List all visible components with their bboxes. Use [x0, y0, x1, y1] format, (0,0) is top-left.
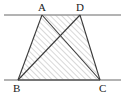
vertex-label-C: C — [99, 83, 106, 94]
vertex-label-B: B — [13, 83, 20, 94]
vertex-label-A: A — [38, 2, 46, 13]
geometry-figure: A D B C — [0, 0, 125, 97]
vertex-label-D: D — [76, 2, 84, 13]
